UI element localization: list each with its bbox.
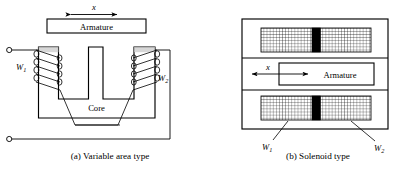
armature-label-a: Armature [80,22,113,32]
leader-line-w1-b [273,121,288,140]
coil-w2-wire-a [133,50,157,90]
winding-center-block-bottom-b [312,96,321,120]
transducer-figure-svg: x Armature Core [0,0,410,170]
panel-solenoid: Armature x W1 W2 (b) Solenoid type [242,19,388,161]
caption-b: (b) Solenoid type [286,151,350,161]
terminal-bottom-a [7,136,12,141]
coil-w2-a [75,50,160,125]
coil-w1-label-a: W1 [16,62,26,73]
figure-root: x Armature Core [0,0,410,170]
caption-a: (a) Variable area type [71,151,150,161]
coil-w2-label-a: W2 [158,73,168,84]
displacement-label-b: x [265,62,270,72]
coil-w2-label-b: W2 [374,143,384,154]
winding-block-top-b [261,28,371,52]
winding-block-bottom-b [261,96,371,120]
core-label-a: Core [88,103,105,113]
coil-w1-wire-a [36,50,60,90]
leader-line-w2-b [351,121,375,141]
winding-center-block-top-b [312,28,321,52]
displacement-label-a: x [91,2,96,12]
panel-variable-area: x Armature Core [7,2,170,161]
armature-label-b: Armature [324,70,357,80]
coil-w1-a [34,50,120,125]
coil-w1-label-b: W1 [262,142,272,153]
terminal-top-a [7,47,12,52]
